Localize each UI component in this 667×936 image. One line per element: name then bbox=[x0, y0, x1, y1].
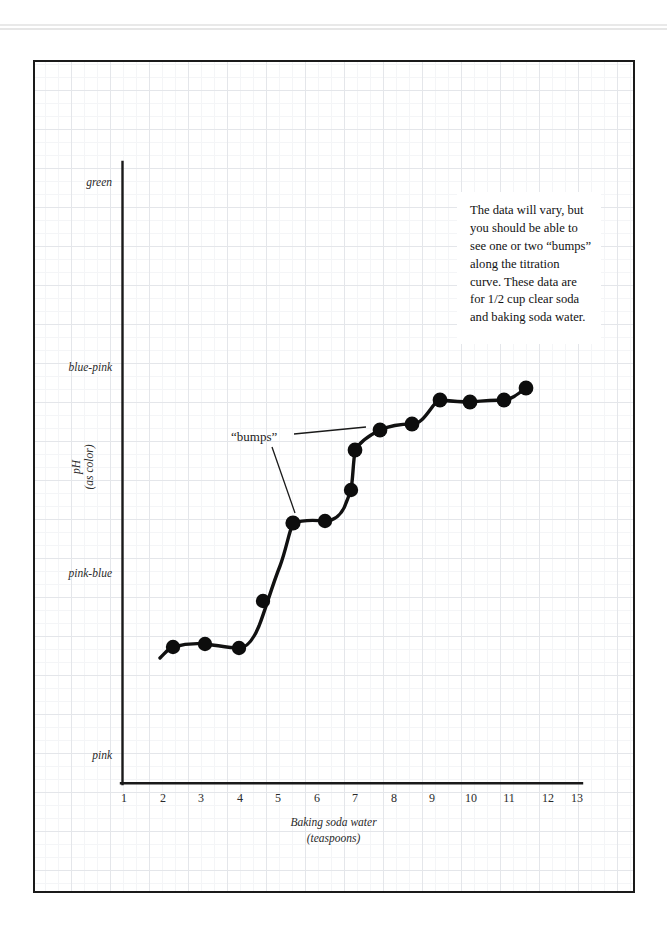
x-tick-label-12: 12 bbox=[536, 791, 560, 806]
x-tick-label-3: 3 bbox=[189, 791, 213, 806]
x-tick-label-6: 6 bbox=[305, 791, 329, 806]
x-tick-label-11: 11 bbox=[497, 791, 521, 806]
figure-frame bbox=[33, 60, 635, 893]
y-tick-label-pink: pink bbox=[40, 749, 112, 761]
note-box: The data will vary, but you should be ab… bbox=[457, 192, 601, 344]
y-axis-title: pH (as color) bbox=[48, 432, 118, 502]
y-tick-label-green: green bbox=[40, 176, 112, 188]
x-tick-label-7: 7 bbox=[343, 791, 367, 806]
page-top-rule bbox=[0, 22, 667, 34]
x-axis-title-main: Baking soda water bbox=[0, 815, 667, 831]
x-tick-label-10: 10 bbox=[459, 791, 483, 806]
figure-page: green blue-pink pink-blue pink pH (as co… bbox=[0, 0, 667, 936]
x-axis-title-units: (teaspoons) bbox=[0, 831, 667, 847]
y-axis-title-main: pH bbox=[70, 444, 83, 489]
x-tick-label-2: 2 bbox=[151, 791, 175, 806]
x-tick-label-4: 4 bbox=[228, 791, 252, 806]
x-tick-label-9: 9 bbox=[420, 791, 444, 806]
y-tick-label-blue-pink: blue-pink bbox=[22, 361, 112, 373]
y-axis-title-units: (as color) bbox=[83, 444, 96, 489]
x-tick-label-13: 13 bbox=[565, 791, 589, 806]
y-tick-label-pink-blue: pink-blue bbox=[22, 567, 112, 579]
graph-paper-grid bbox=[35, 62, 633, 891]
bumps-annotation-label: “bumps” bbox=[231, 429, 277, 445]
x-axis-title: Baking soda water (teaspoons) bbox=[0, 815, 667, 846]
x-tick-label-8: 8 bbox=[382, 791, 406, 806]
x-tick-label-5: 5 bbox=[266, 791, 290, 806]
x-tick-label-1: 1 bbox=[112, 791, 136, 806]
